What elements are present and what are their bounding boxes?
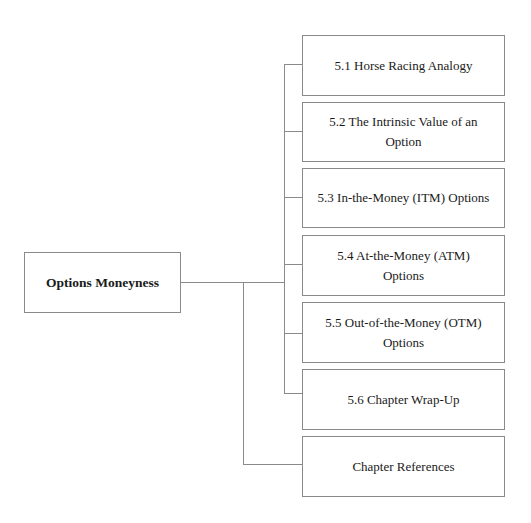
node-5-2-intrinsic-value: 5.2 The Intrinsic Value of an Option (302, 102, 505, 162)
node-5-5-otm-options: 5.5 Out-of-the-Money (OTM) Options (302, 302, 505, 363)
connector-main-trunk (284, 64, 285, 394)
connector-branch-2 (284, 131, 302, 132)
connector-branch-6 (284, 393, 302, 394)
node-label: 5.5 Out-of-the-Money (OTM) Options (317, 313, 490, 353)
connector-references-trunk (243, 282, 244, 465)
connector-branch-5 (284, 333, 302, 334)
root-node-label: Options Moneyness (46, 273, 159, 293)
node-label: 5.3 In-the-Money (ITM) Options (318, 188, 490, 208)
node-label: 5.1 Horse Racing Analogy (335, 56, 473, 76)
root-node-options-moneyness: Options Moneyness (24, 252, 181, 313)
node-label: 5.4 At-the-Money (ATM) Options (317, 246, 490, 286)
node-5-4-atm-options: 5.4 At-the-Money (ATM) Options (302, 235, 505, 296)
connector-root-to-trunk (181, 282, 285, 283)
connector-branch-3 (284, 197, 302, 198)
connector-branch-1 (284, 64, 302, 65)
connector-branch-4 (284, 264, 302, 265)
node-5-1-horse-racing-analogy: 5.1 Horse Racing Analogy (302, 35, 505, 96)
node-label: Chapter References (352, 457, 454, 477)
node-label: 5.2 The Intrinsic Value of an Option (317, 112, 490, 152)
connector-branch-7 (243, 464, 302, 465)
node-5-3-itm-options: 5.3 In-the-Money (ITM) Options (302, 168, 505, 228)
node-5-6-chapter-wrap-up: 5.6 Chapter Wrap-Up (302, 369, 505, 430)
node-chapter-references: Chapter References (302, 436, 505, 497)
node-label: 5.6 Chapter Wrap-Up (347, 390, 459, 410)
